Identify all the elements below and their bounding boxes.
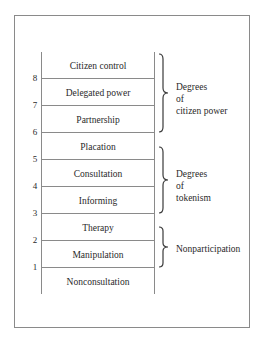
rung-delegated-power: Delegated power [42, 87, 154, 99]
group-label-line: tokenism [176, 192, 211, 204]
rung-consultation: Consultation [42, 168, 154, 180]
rung-therapy: Therapy [42, 222, 154, 234]
rung-line-7 [41, 105, 154, 106]
group-label-nonparticipation: Nonparticipation [176, 243, 240, 255]
group-label-line: Nonparticipation [176, 243, 240, 255]
group-label-line: of [176, 180, 211, 192]
group-label-citizen-power: Degrees of citizen power [176, 81, 227, 117]
rung-line-4 [41, 186, 154, 187]
group-label-tokenism: Degrees of tokenism [176, 168, 211, 204]
group-label-line: Degrees [176, 168, 211, 180]
level-number: 3 [31, 209, 39, 218]
brace-icon [158, 53, 170, 133]
brace-icon [158, 226, 170, 268]
rung-placation: Placation [42, 141, 154, 153]
level-number: 4 [31, 182, 39, 191]
rung-citizen-control: Citizen control [42, 60, 154, 72]
level-number: 7 [31, 101, 39, 110]
rung-informing: Informing [42, 195, 154, 207]
rung-line-2 [41, 240, 154, 241]
group-label-line: Degrees [176, 81, 227, 93]
rung-line-5 [41, 159, 154, 160]
rung-line-6 [41, 132, 154, 133]
ladder-right-rail [154, 52, 155, 294]
level-number: 2 [31, 236, 39, 245]
rung-line-8 [41, 78, 154, 79]
group-label-line: of [176, 93, 227, 105]
level-number: 6 [31, 128, 39, 137]
level-number: 5 [31, 155, 39, 164]
level-number: 1 [31, 263, 39, 272]
rung-partnership: Partnership [42, 114, 154, 126]
rung-line-3 [41, 213, 154, 214]
level-number: 8 [31, 74, 39, 83]
rung-manipulation: Manipulation [42, 249, 154, 261]
group-label-line: citizen power [176, 105, 227, 117]
rung-nonconsultation: Nonconsultation [42, 276, 154, 288]
rung-line-1 [41, 267, 154, 268]
brace-icon [158, 146, 170, 214]
